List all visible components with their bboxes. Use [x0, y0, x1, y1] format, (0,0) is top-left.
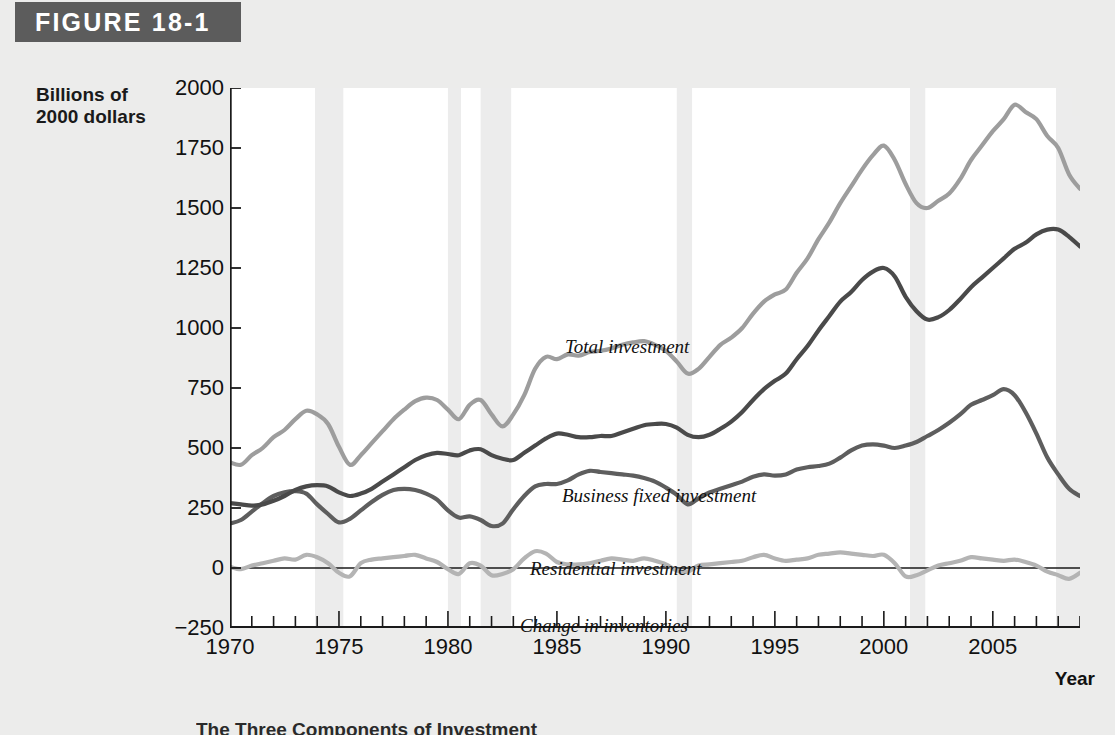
recession-band [481, 88, 512, 628]
recession-band [677, 88, 692, 628]
x-axis-tick-label: 2000 [849, 634, 919, 660]
plot-corner-notch [1072, 88, 1080, 116]
figure-caption: The Three Components of Investment [196, 719, 896, 735]
y-axis-tick-label: 1500 [104, 197, 224, 219]
series-label-residential-investment: Residential investment [530, 558, 701, 580]
y-axis-tick-labels: 200017501500125010007505002500−250 [98, 88, 224, 628]
x-axis-tick-labels: 19701975198019851990199520002005 [230, 634, 1090, 668]
series-label-total-investment: Total investment [565, 336, 689, 358]
y-axis-tick-label: 1250 [104, 257, 224, 279]
recession-band [448, 88, 461, 628]
x-axis-tick-label: 2005 [958, 634, 1028, 660]
investment-line-chart [230, 88, 1080, 628]
y-axis-tick-label: 750 [104, 377, 224, 399]
y-axis-tick-label: 1000 [104, 317, 224, 339]
chart-plot-area: Total investmentBusiness fixed investmen… [230, 88, 1080, 628]
x-axis-tick-label: 1990 [631, 634, 701, 660]
series-line [230, 229, 1080, 506]
x-axis-tick-label: 1970 [195, 634, 265, 660]
x-axis-tick-label: 1995 [740, 634, 810, 660]
recession-band [315, 88, 343, 628]
x-axis-tick-label: 1980 [413, 634, 483, 660]
figure-number-label: FIGURE 18-1 [35, 8, 211, 37]
y-axis-tick-label: 500 [104, 437, 224, 459]
figure-banner: FIGURE 18-1 [15, 2, 241, 42]
y-axis-tick-label: 250 [104, 497, 224, 519]
series-line [230, 105, 1080, 465]
y-axis-tick-label: 0 [104, 557, 224, 579]
x-axis-title: Year [1055, 668, 1095, 690]
recession-band [910, 88, 925, 628]
x-axis-tick-label: 1985 [522, 634, 592, 660]
y-axis-tick-label: 1750 [104, 137, 224, 159]
y-axis-tick-label: 2000 [104, 77, 224, 99]
x-axis-tick-label: 1975 [304, 634, 374, 660]
series-label-business-fixed: Business fixed investment [562, 485, 756, 507]
